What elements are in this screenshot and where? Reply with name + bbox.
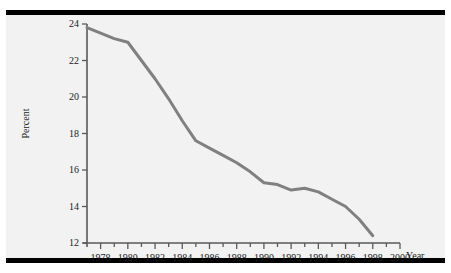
y-tick-label: 14 (53, 202, 79, 212)
y-tick-label: 18 (53, 129, 79, 139)
figure-container: 1214161820222419781980198219841986198819… (0, 0, 451, 273)
axes-group (82, 24, 400, 249)
x-axis-title: Year (406, 250, 424, 261)
y-tick-label: 16 (53, 165, 79, 175)
data-line-percent (87, 28, 373, 236)
data-series-group (87, 28, 373, 236)
y-tick-label: 20 (53, 92, 79, 102)
y-axis-title: Percent (20, 89, 31, 159)
y-tick-label: 22 (53, 56, 79, 66)
y-tick-label: 12 (53, 238, 79, 248)
y-tick-label: 24 (53, 19, 79, 29)
